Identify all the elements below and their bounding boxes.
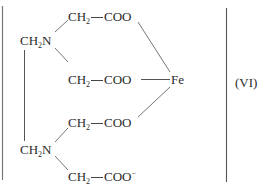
amine-top-label: CH2N <box>20 34 51 49</box>
arm1-label: CH2COO <box>68 10 132 25</box>
arm2-label: CH2COO <box>68 73 132 88</box>
iron-center-label: Fe <box>171 73 184 86</box>
n1-arm2-bond <box>55 48 68 62</box>
arm3-fe-bond <box>138 87 170 117</box>
n2-arm3-bond <box>55 128 68 142</box>
arm4-label: CH2COO− <box>68 170 136 185</box>
amine-bottom-label: CH2N <box>20 143 51 158</box>
bond-lines <box>0 0 276 188</box>
n1-arm1-bond <box>55 20 68 32</box>
n2-arm4-bond <box>55 156 68 170</box>
arm1-fe-bond <box>138 22 170 72</box>
structure-diagram: CH2N CH2COO CH2COO Fe (VI) CH2COO CH2N C… <box>0 0 276 188</box>
single-bond <box>91 80 103 81</box>
arm3-label: CH2COO <box>68 116 132 131</box>
single-bond <box>91 123 103 124</box>
compound-number-label: (VI) <box>235 76 257 89</box>
single-bond <box>91 17 103 18</box>
negative-charge: − <box>132 169 137 178</box>
single-bond <box>91 177 103 178</box>
